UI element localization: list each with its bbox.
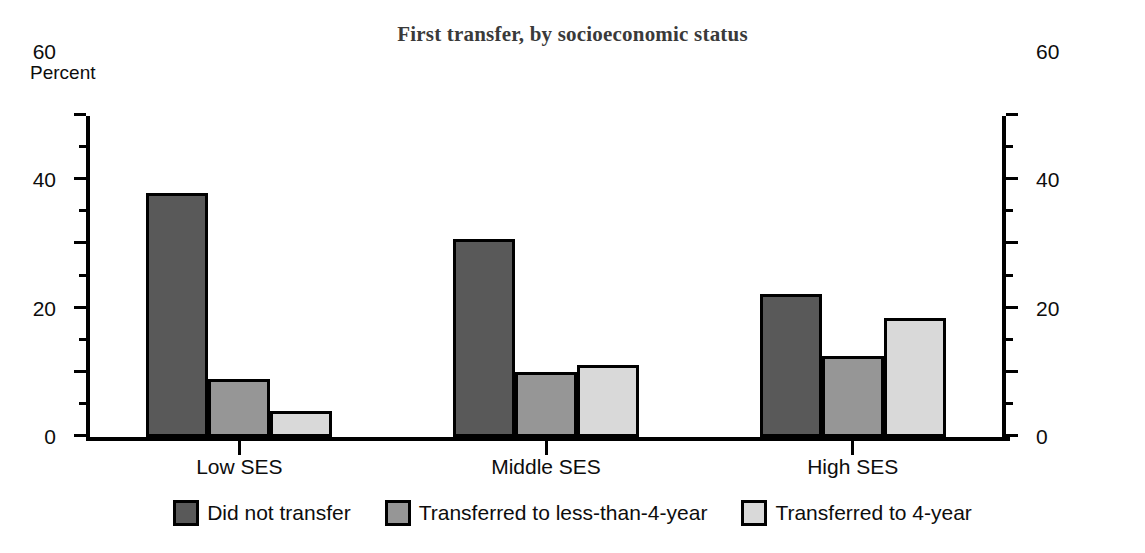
bar [822, 356, 884, 437]
y-axis-right-tick-label: 0 [1036, 425, 1048, 449]
y-axis-left-minor-tick [79, 274, 86, 277]
legend-label: Transferred to less-than-4-year [419, 501, 708, 525]
x-axis-category-label: Middle SES [491, 455, 601, 479]
y-axis-right-tick-label: 20 [1036, 297, 1059, 321]
y-axis-left-tick-label: 60 [33, 40, 56, 64]
chart-legend: Did not transferTransferred to less-than… [0, 500, 1145, 526]
page-title: First transfer, by socioeconomic status [0, 22, 1145, 47]
y-axis-left-line [86, 116, 90, 441]
legend-label: Transferred to 4-year [775, 501, 971, 525]
y-axis-right-minor-tick [1006, 145, 1013, 148]
y-axis-left-tick-label: 0 [44, 425, 56, 449]
y-axis-left-tick-label: 20 [33, 297, 56, 321]
bar [146, 193, 208, 437]
y-axis-right-minor-tick [1006, 338, 1013, 341]
x-axis-category-label: High SES [807, 455, 898, 479]
y-axis-left-tick: 100 [74, 113, 86, 116]
y-axis-right-tick: 100 [1006, 113, 1018, 116]
y-axis-right-tick: 80 [1006, 177, 1018, 180]
y-axis-left-tick: 60 [74, 241, 86, 244]
x-axis-line [86, 437, 1010, 441]
y-axis-right-tick: 60 [1006, 241, 1018, 244]
y-axis-left-tick: 80 [74, 177, 86, 180]
y-axis-right-tick: 40 [1006, 306, 1018, 309]
y-axis-right-minor-tick [1006, 274, 1013, 277]
y-axis-left-tick: 40 [74, 306, 86, 309]
y-axis-title: Percent [30, 62, 95, 84]
y-axis-left-minor-tick [79, 209, 86, 212]
y-axis-right-tick: 0 [1006, 434, 1018, 437]
y-axis-right-tick-label: 60 [1036, 40, 1059, 64]
y-axis-left-minor-tick [79, 338, 86, 341]
x-axis-tick [545, 441, 548, 455]
chart-page: First transfer, by socioeconomic status … [0, 0, 1145, 553]
bar [453, 239, 515, 437]
y-axis-left-tick: 20 [74, 370, 86, 373]
y-axis-right-tick: 20 [1006, 370, 1018, 373]
y-axis-right-minor-tick [1006, 209, 1013, 212]
bar [208, 379, 270, 437]
x-axis-tick [851, 441, 854, 455]
legend-swatch-icon [741, 500, 767, 526]
bar [270, 411, 332, 437]
legend-item: Transferred to less-than-4-year [385, 500, 708, 526]
x-axis-category-label: Low SES [196, 455, 282, 479]
y-axis-right-minor-tick [1006, 402, 1013, 405]
bar [577, 365, 639, 437]
y-axis-left-minor-tick [79, 145, 86, 148]
x-axis-tick [238, 441, 241, 455]
legend-label: Did not transfer [207, 501, 351, 525]
legend-item: Transferred to 4-year [741, 500, 971, 526]
legend-swatch-icon [173, 500, 199, 526]
y-axis-left-minor-tick [79, 402, 86, 405]
bar [515, 372, 577, 437]
y-axis-left-tick-label: 40 [33, 168, 56, 192]
y-axis-right-line [1002, 116, 1006, 441]
bar [760, 294, 822, 437]
bar [884, 318, 946, 437]
legend-item: Did not transfer [173, 500, 351, 526]
plot-area: 020406080100 020406080100 [86, 116, 1006, 437]
y-axis-right-tick-label: 40 [1036, 168, 1059, 192]
y-axis-left-tick: 0 [74, 434, 86, 437]
legend-swatch-icon [385, 500, 411, 526]
